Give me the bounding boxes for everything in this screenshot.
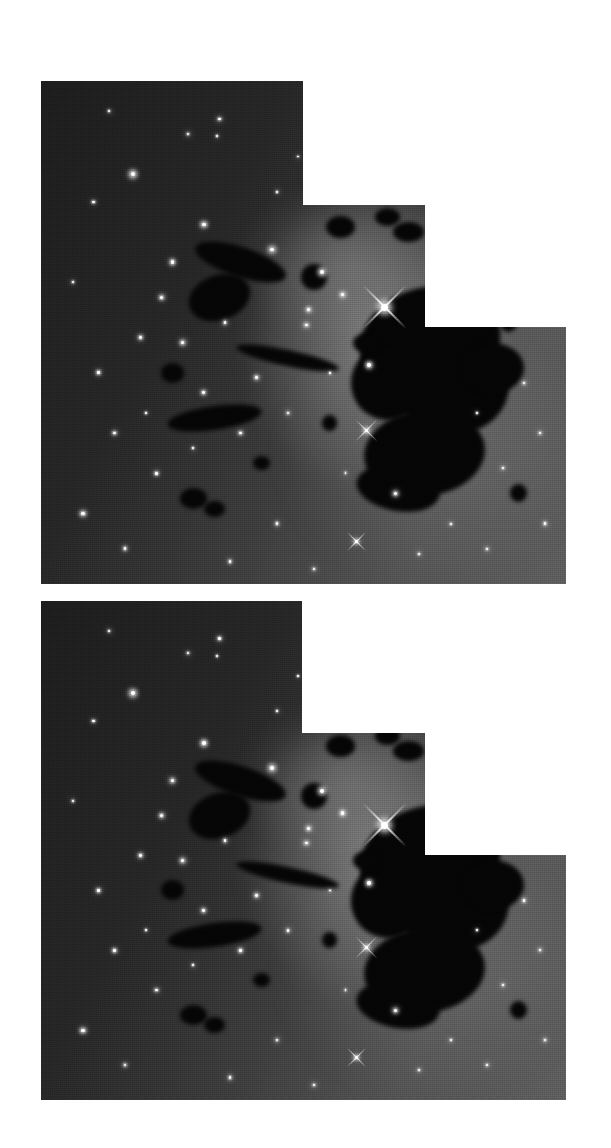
sky-canvas <box>41 601 302 1100</box>
sky-canvas <box>425 327 566 584</box>
panel-bottom-left <box>41 601 302 1100</box>
sky-canvas <box>41 81 303 584</box>
halftone-grain <box>425 855 566 1100</box>
halftone-grain <box>303 205 425 584</box>
figure-root <box>0 0 611 1148</box>
sky-canvas <box>302 733 425 1100</box>
panel-bottom-right <box>425 855 566 1100</box>
sky-canvas <box>425 855 566 1100</box>
halftone-grain <box>41 601 302 1100</box>
panel-top-right <box>425 327 566 584</box>
sky-canvas <box>303 205 425 584</box>
halftone-grain <box>41 81 303 584</box>
panel-top-middle <box>303 205 425 584</box>
plate-top <box>41 81 566 584</box>
panel-bottom-middle <box>302 733 425 1100</box>
panel-top-left <box>41 81 303 584</box>
halftone-grain <box>425 327 566 584</box>
plate-bottom <box>41 601 566 1100</box>
halftone-grain <box>302 733 425 1100</box>
